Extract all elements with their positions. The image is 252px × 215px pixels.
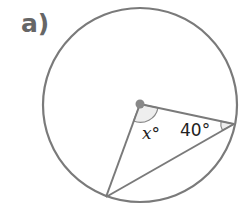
angle-40-label: 40° bbox=[180, 120, 210, 140]
angle-x-label: x° bbox=[142, 123, 160, 143]
center-point bbox=[136, 100, 145, 109]
radius-to-bottom bbox=[106, 104, 140, 197]
circle-angle-diagram: x° 40° bbox=[0, 0, 252, 215]
chord bbox=[106, 124, 234, 197]
